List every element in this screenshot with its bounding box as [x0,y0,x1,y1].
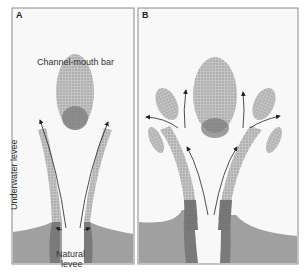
delta-diagram [0,0,308,279]
panel-a-label: A [16,10,23,20]
natural-levee-label-line2: levee [61,260,83,269]
panel-a [12,8,134,264]
channel-mouth-bar-label: Channel-mouth bar [37,58,114,67]
panel-b [138,8,298,264]
underwater-levee-label: Underwater levee [10,139,19,210]
panel-b-label: B [142,10,149,20]
natural-levee-label-line1: Natural [56,250,85,259]
